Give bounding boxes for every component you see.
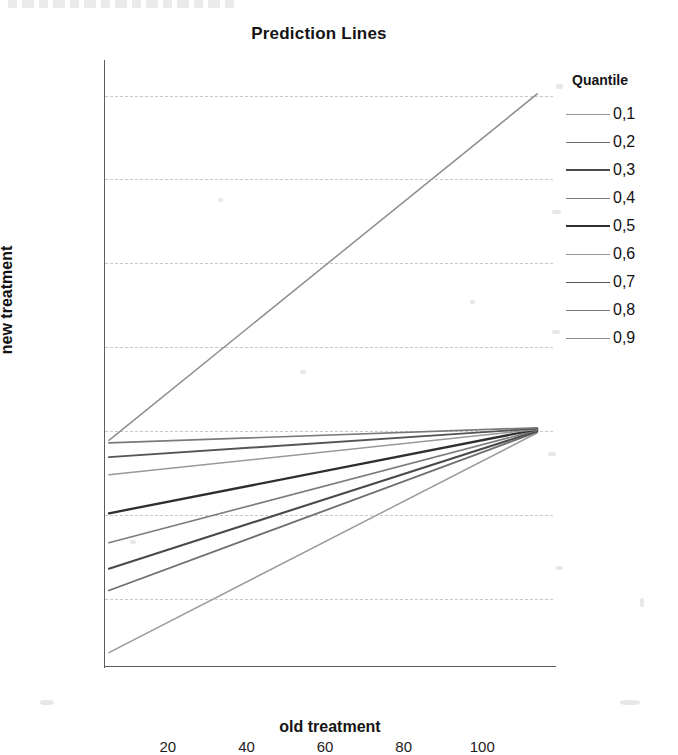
data-line-quantile-0-1 [109, 433, 537, 653]
scan-speck [552, 210, 561, 214]
scan-speck [620, 700, 640, 705]
data-line-quantile-0-2 [109, 432, 537, 591]
legend-item-0-5[interactable]: 0,5 [566, 212, 635, 240]
legend-item-0-2[interactable]: 0,2 [566, 128, 635, 156]
legend-swatch-line-icon [566, 198, 610, 199]
scan-speck [300, 370, 306, 374]
legend-item-label: 0,3 [613, 161, 635, 179]
legend-item-0-4[interactable]: 0,4 [566, 184, 635, 212]
prediction-lines-chart: Prediction Lines new treatment old treat… [0, 0, 678, 755]
x-tick-label-80: 80 [374, 738, 434, 755]
legend-items-group: 0,10,20,30,40,50,60,70,80,9 [566, 100, 635, 352]
scan-speck [470, 300, 475, 304]
legend-item-label: 0,5 [613, 217, 635, 235]
data-line-quantile-0-9 [109, 94, 537, 440]
legend-item-label: 0,6 [613, 245, 635, 263]
scan-speck [556, 566, 563, 570]
legend-item-label: 0,4 [613, 189, 635, 207]
scan-speck [556, 84, 563, 89]
legend-item-0-6[interactable]: 0,6 [566, 240, 635, 268]
legend-item-0-1[interactable]: 0,1 [566, 100, 635, 128]
data-line-quantile-0-4 [109, 430, 537, 542]
scan-speck [130, 540, 136, 544]
scan-speck [218, 198, 223, 202]
legend-item-0-9[interactable]: 0,9 [566, 324, 635, 352]
legend-item-label: 0,2 [613, 133, 635, 151]
legend-item-label: 0,7 [613, 273, 635, 291]
x-tick-label-100: 100 [452, 738, 512, 755]
legend-swatch-line-icon [566, 282, 610, 283]
legend-item-0-7[interactable]: 0,7 [566, 268, 635, 296]
x-tick-label-20: 20 [138, 738, 198, 755]
legend: Quantile 0,10,20,30,40,50,60,70,80,9 [566, 72, 635, 352]
legend-swatch-line-icon [566, 142, 610, 143]
legend-item-label: 0,1 [613, 105, 635, 123]
y-axis-title: new treatment [0, 246, 16, 354]
legend-swatch-line-icon [566, 114, 610, 115]
legend-item-0-8[interactable]: 0,8 [566, 296, 635, 324]
legend-swatch-line-icon [566, 254, 610, 255]
scan-speck [548, 452, 556, 456]
legend-title: Quantile [572, 72, 635, 88]
x-axis-line [104, 666, 556, 667]
legend-item-0-3[interactable]: 0,3 [566, 156, 635, 184]
legend-swatch-line-icon [566, 338, 610, 339]
chart-title: Prediction Lines [0, 24, 658, 44]
scan-speck [552, 330, 560, 334]
plot-area: 20304050607080 20406080100 [105, 62, 553, 666]
x-tick-label-60: 60 [295, 738, 355, 755]
legend-swatch-line-icon [566, 310, 610, 311]
x-axis-title: old treatment [104, 718, 556, 736]
legend-item-label: 0,8 [613, 301, 635, 319]
legend-item-label: 0,9 [613, 329, 635, 347]
scan-speck [40, 700, 54, 705]
data-line-quantile-0-8 [109, 428, 537, 443]
x-tick-label-40: 40 [216, 738, 276, 755]
legend-swatch-line-icon [566, 169, 610, 171]
data-lines-group [105, 62, 553, 666]
scan-speck [640, 598, 644, 607]
legend-swatch-line-icon [566, 225, 610, 227]
